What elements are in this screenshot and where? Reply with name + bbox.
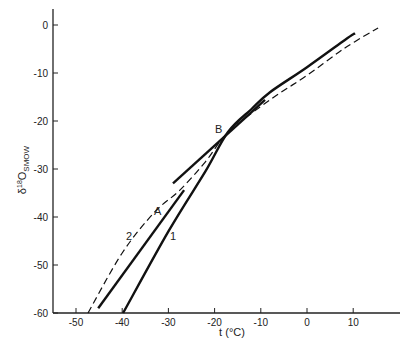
y-tick-label: -30	[34, 164, 49, 175]
y-tick-label: 0	[42, 20, 48, 31]
chart-svg: 0-10-20-30-40-50-60-50-40-30-20-10010 AB…	[0, 0, 410, 350]
x-tick-label: 10	[348, 317, 360, 328]
y-tick-label: -40	[34, 212, 49, 223]
y-tick-label: -50	[34, 260, 49, 271]
x-tick-label: -10	[254, 317, 269, 328]
y-label-sup: 18	[16, 180, 23, 188]
x-tick-label: -30	[161, 317, 176, 328]
series-line-b-line	[173, 100, 265, 183]
y-label-sub: SMOW	[22, 145, 31, 171]
series-line-1	[123, 33, 355, 313]
chart-container: 0-10-20-30-40-50-60-50-40-30-20-10010 AB…	[0, 0, 410, 350]
annotation-2: 2	[126, 230, 132, 242]
axes: 0-10-20-30-40-50-60-50-40-30-20-10010	[34, 9, 400, 328]
svg-text:δ18OSMOW: δ18OSMOW	[16, 145, 31, 194]
annotation-b: B	[215, 123, 222, 135]
x-tick-label: -40	[115, 317, 130, 328]
series-group	[88, 28, 378, 313]
y-tick-label: -60	[34, 308, 49, 319]
x-axis-label: t (°C)	[219, 326, 245, 338]
x-tick-label: -50	[69, 317, 84, 328]
x-tick-label: 0	[304, 317, 310, 328]
y-tick-label: -20	[34, 116, 49, 127]
annotation-1: 1	[170, 230, 176, 242]
y-axis-label: δ18OSMOW	[16, 145, 31, 194]
series-line-2	[88, 28, 378, 313]
y-tick-label: -10	[34, 68, 49, 79]
annotation-a: A	[154, 205, 162, 217]
series-line-a	[98, 190, 184, 308]
